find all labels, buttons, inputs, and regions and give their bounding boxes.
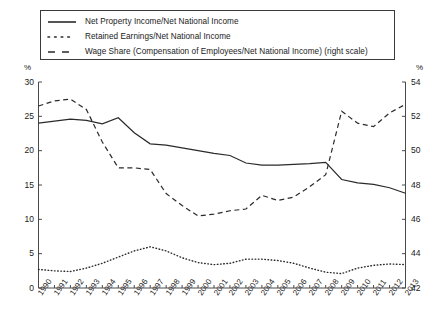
axis-lines bbox=[39, 82, 406, 288]
chart-container: Net Property Income/Net National Income … bbox=[0, 0, 445, 328]
series-line-2 bbox=[39, 99, 406, 216]
chart-plot-area bbox=[0, 0, 445, 328]
data-series-layer bbox=[39, 99, 406, 273]
series-line-1 bbox=[39, 247, 406, 274]
series-line-0 bbox=[39, 118, 406, 194]
